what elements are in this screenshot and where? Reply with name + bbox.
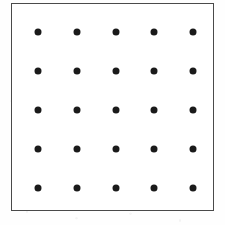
grid-dot (151, 185, 158, 192)
grid-dot (151, 68, 158, 75)
grid-dot (35, 29, 42, 36)
grid-dot (190, 107, 197, 114)
dot-plot-area (12, 4, 213, 210)
grid-dot (113, 185, 120, 192)
grid-dot (35, 146, 42, 153)
grid-dot (190, 146, 197, 153)
grid-dot (35, 107, 42, 114)
grid-dot (151, 29, 158, 36)
grid-dot (151, 107, 158, 114)
grid-dot (113, 29, 120, 36)
grid-dot (190, 29, 197, 36)
figure-canvas (0, 0, 225, 225)
grid-dot (113, 68, 120, 75)
grid-dot (190, 68, 197, 75)
grid-dot (74, 185, 81, 192)
grid-dot (35, 68, 42, 75)
grid-dot (74, 29, 81, 36)
grid-dot (35, 185, 42, 192)
grid-dot (190, 185, 197, 192)
grid-dot (113, 146, 120, 153)
grid-dot (74, 68, 81, 75)
grid-dot (74, 107, 81, 114)
grid-dot (151, 146, 158, 153)
grid-dot (113, 107, 120, 114)
dot-grid-frame (11, 3, 214, 211)
grid-dot (74, 146, 81, 153)
